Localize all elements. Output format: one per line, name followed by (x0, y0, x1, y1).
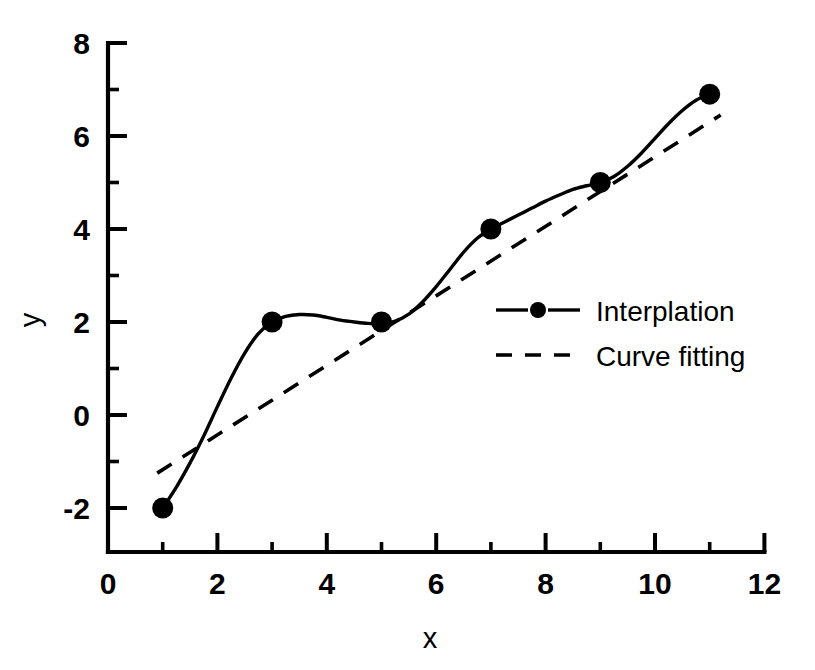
x-tick-label: 12 (748, 567, 781, 600)
legend-label-interplation: Interplation (596, 296, 735, 327)
data-point-marker (262, 312, 283, 333)
y-axis-label: y (14, 312, 46, 327)
chart-container: -202468 024681012 x y Interplation Curve… (0, 0, 815, 670)
legend-item-interplation: Interplation (496, 296, 735, 327)
x-axis-ticks (163, 533, 765, 552)
x-axis-tick-labels: 024681012 (100, 567, 781, 600)
line-chart: -202468 024681012 x y Interplation Curve… (0, 0, 815, 670)
legend-label-curve-fitting: Curve fitting (596, 341, 745, 372)
chart-legend: Interplation Curve fitting (496, 296, 745, 372)
x-axis-label: x (423, 622, 438, 654)
x-tick-label: 4 (318, 567, 335, 600)
x-tick-label: 8 (537, 567, 554, 600)
y-tick-label: 6 (73, 120, 90, 153)
x-tick-label: 10 (638, 567, 671, 600)
data-point-marker (590, 172, 611, 193)
data-point-marker (699, 84, 720, 105)
y-tick-label: 4 (73, 213, 90, 246)
data-point-marker (480, 219, 501, 240)
y-axis-tick-labels: -202468 (63, 27, 90, 525)
legend-marker-icon (530, 302, 546, 318)
y-tick-label: 8 (73, 27, 90, 60)
x-tick-label: 0 (100, 567, 117, 600)
y-tick-label: 0 (73, 399, 90, 432)
data-point-marker (152, 498, 173, 519)
y-tick-label: -2 (63, 492, 90, 525)
y-axis-ticks (108, 43, 127, 508)
data-point-marker (371, 312, 392, 333)
legend-item-curve-fitting: Curve fitting (496, 341, 745, 372)
y-tick-label: 2 (73, 306, 90, 339)
x-tick-label: 2 (209, 567, 226, 600)
x-tick-label: 6 (428, 567, 445, 600)
curve-fitting-line (157, 115, 720, 473)
